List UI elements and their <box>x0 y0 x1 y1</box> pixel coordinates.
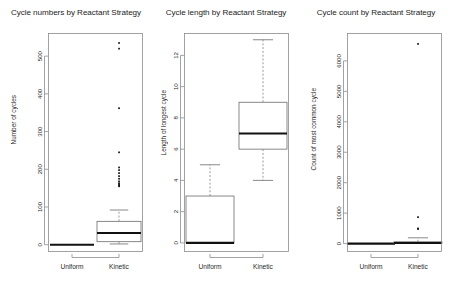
svg-text:Kinetic: Kinetic <box>109 263 129 270</box>
chart-panel-cycle-length: Cycle length by Reactant Strategy Length… <box>152 0 300 289</box>
svg-text:10: 10 <box>173 83 180 90</box>
box-group <box>50 42 141 245</box>
svg-text:1000: 1000 <box>336 206 343 220</box>
svg-text:0: 0 <box>173 241 180 245</box>
box-group <box>186 40 287 243</box>
y-axis-ticks: 0100200300400500 <box>37 50 49 246</box>
y-axis-ticks: 024681012 <box>173 51 185 244</box>
svg-text:2: 2 <box>173 209 180 213</box>
svg-text:Uniform: Uniform <box>359 263 383 270</box>
x-axis: UniformKinetic <box>60 254 129 270</box>
svg-text:2000: 2000 <box>336 175 343 189</box>
plot-area: 0100020003000400050006000 UniformKinetic <box>300 0 452 289</box>
chart-panel-cycle-numbers: Cycle numbers by Reactant Strategy Numbe… <box>0 0 152 289</box>
svg-text:100: 100 <box>37 201 44 212</box>
plot-frame <box>49 34 143 252</box>
boxplot-figure: Cycle numbers by Reactant Strategy Numbe… <box>0 0 452 289</box>
svg-text:300: 300 <box>37 126 44 137</box>
plot-frame <box>348 34 442 252</box>
svg-text:4: 4 <box>173 178 180 182</box>
svg-text:4000: 4000 <box>336 114 343 128</box>
box-group <box>347 43 442 244</box>
svg-text:5000: 5000 <box>336 84 343 98</box>
svg-text:8: 8 <box>173 116 180 120</box>
svg-text:0: 0 <box>37 242 44 246</box>
svg-text:Kinetic: Kinetic <box>253 263 273 270</box>
x-axis: UniformKinetic <box>198 254 273 270</box>
svg-text:Kinetic: Kinetic <box>408 263 428 270</box>
x-axis: UniformKinetic <box>359 254 428 270</box>
svg-text:6: 6 <box>173 147 180 151</box>
svg-text:0: 0 <box>336 241 343 245</box>
plot-area: 024681012 UniformKinetic <box>152 0 300 289</box>
svg-text:Uniform: Uniform <box>198 263 222 270</box>
svg-text:12: 12 <box>173 51 180 58</box>
svg-text:200: 200 <box>37 164 44 175</box>
plot-area: 0100200300400500 UniformKinetic <box>0 0 152 289</box>
chart-panel-cycle-count: Cycle count by Reactant Strategy Count o… <box>300 0 452 289</box>
svg-text:400: 400 <box>37 88 44 99</box>
svg-text:3000: 3000 <box>336 145 343 159</box>
svg-text:6000: 6000 <box>336 54 343 68</box>
svg-text:500: 500 <box>37 50 44 61</box>
svg-text:Uniform: Uniform <box>60 263 84 270</box>
y-axis-ticks: 0100020003000400050006000 <box>336 54 348 246</box>
